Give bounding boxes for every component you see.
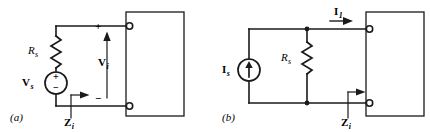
panel-a-impedance-label: Zi: [64, 117, 74, 131]
panel-b-i1-arrowhead: [343, 17, 353, 25]
panel-b-impedance-label: Zi: [341, 117, 351, 131]
panel-b-terminal-bottom: [366, 100, 372, 106]
panel-b-resistor-zigzag: [302, 42, 312, 74]
panel-b-source-arrowhead: [245, 61, 252, 68]
panel-a-vi-arrowhead: [103, 32, 110, 42]
panel-a-port-voltage-label: Vi: [98, 57, 109, 71]
panel-a-port-plus-sign: +: [95, 21, 101, 32]
panel-b-junction-top: [305, 27, 310, 32]
panel-b-source-label: Is: [222, 64, 230, 78]
panel-b-input-block: [366, 12, 424, 116]
circuit-figure: Rs Vs + − + − Vi Zi (a) Is Rs I1 Zi (b): [0, 0, 430, 132]
panel-a-resistor-zigzag: [51, 36, 61, 68]
panel-a-terminal-bottom: [126, 103, 132, 109]
panel-a-source-minus-sign: −: [53, 83, 59, 93]
panel-a-schematic: [45, 12, 184, 118]
panel-a-source-plus-sign: +: [53, 72, 59, 82]
panel-a-input-block: [126, 12, 184, 116]
panel-a-port-minus-sign: −: [95, 93, 101, 104]
panel-a-zi-arrowhead: [80, 91, 90, 98]
panel-b-port-current-label: I1: [334, 6, 343, 20]
panel-a-resistor-label: Rs: [28, 45, 38, 59]
panel-b-junction-bottom: [305, 101, 310, 106]
panel-a-terminal-top: [126, 23, 132, 29]
panel-b-terminal-top: [366, 26, 372, 32]
panel-b-zi-arrowhead: [356, 88, 366, 95]
panel-b-resistor-label: Rs: [281, 52, 291, 66]
panel-a-caption: (a): [10, 112, 23, 123]
panel-b-caption: (b): [222, 112, 235, 123]
panel-b-schematic: [238, 12, 424, 118]
circuit-schematic-canvas: [0, 0, 430, 132]
panel-a-source-label: Vs: [22, 77, 34, 91]
